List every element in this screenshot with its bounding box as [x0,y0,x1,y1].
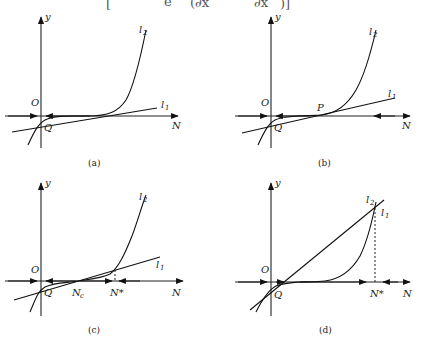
panel-c: O Q N c N* y N l 2 l 1 (c) [5,177,183,335]
l1-subscript: 1 [385,212,389,220]
origin-label: O [261,264,269,275]
l2-subscript: 2 [369,199,375,207]
l2-label: l [366,194,369,205]
origin-label: O [31,264,39,275]
line-l1 [250,200,384,310]
equation-term-1: e [164,0,172,9]
point-nstar-label: N* [109,287,124,298]
panel-a: O Q y N l 2 l 1 (a) [5,11,182,168]
l1-label: l [156,259,159,270]
l2-subscript: 2 [372,31,378,39]
origin-label: O [261,97,269,108]
l2-subscript: 2 [142,196,148,204]
point-p-label: P [316,102,324,113]
n-axis-label: N [402,288,413,299]
l2-label: l [139,191,142,202]
equation-right-bracket: )] [280,0,290,11]
n-axis-label: N [171,120,182,131]
line-l1 [12,108,157,132]
l1-label: l [388,88,391,99]
caption-c: (c) [88,325,100,335]
point-q-label: Q [44,287,52,298]
point-q-label: Q [274,289,282,300]
n-axis-label: N [171,287,182,298]
point-nstar-label: N* [369,288,384,299]
y-axis-label: y [274,11,281,22]
l2-label: l [139,24,142,35]
n-axis-label: N [401,120,412,131]
caption-a: (a) [88,158,100,168]
l1-subscript: 1 [165,104,169,112]
y-axis-label: y [274,177,281,188]
point-q-label: Q [274,122,282,133]
l1-label: l [381,207,384,218]
l2-label: l [369,26,372,37]
point-q-label: Q [44,122,52,133]
equation-left-bracket: [ [106,0,111,11]
l1-label: l [161,99,164,110]
equation-fragment: [ e (∂x ∂x )] [106,0,290,11]
equation-term-3: ∂x [254,0,269,10]
l1-subscript: 1 [392,93,396,101]
panel-d: O Q N* y N l 2 l 1 (d) [235,177,413,335]
origin-label: O [31,97,39,108]
equation-term-2: (∂x [190,0,210,10]
l1-subscript: 1 [160,264,164,272]
caption-d: (d) [319,325,332,335]
phase-diagram-figure: [ e (∂x ∂x )] O Q y N l 2 l 1 (a) [0,0,440,339]
y-axis-label: y [44,177,51,188]
l2-subscript: 2 [142,29,148,37]
panel-b: O Q P y N l 2 l 1 (b) [235,11,412,168]
y-axis-label: y [44,11,51,22]
point-nc-subscript: c [80,292,84,300]
caption-b: (b) [318,158,331,168]
